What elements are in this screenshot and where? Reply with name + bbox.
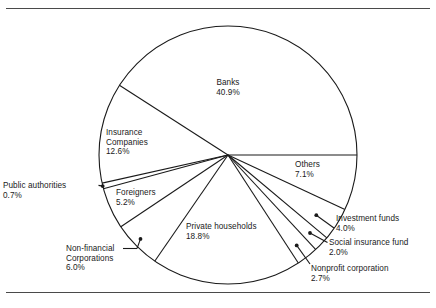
slice-label-nonprofit-name: Nonprofit corporation bbox=[311, 264, 389, 274]
slice-boundary-public-foreigners bbox=[103, 155, 228, 189]
slice-label-investment-value: 4.0% bbox=[336, 224, 399, 234]
slice-label-banks: Banks 40.9% bbox=[188, 78, 268, 97]
slice-label-others-value: 7.1% bbox=[295, 170, 320, 180]
leader-social-insurance-fund bbox=[308, 231, 327, 242]
slice-label-insurance-name-line2: Companies bbox=[106, 138, 148, 148]
slice-boundary-insurance-public bbox=[102, 155, 228, 183]
slice-label-banks-value: 40.9% bbox=[188, 88, 268, 98]
slice-label-social-name: Social insurance fund bbox=[329, 238, 408, 248]
slice-label-households-value: 18.8% bbox=[186, 232, 257, 242]
slice-label-insurance-companies: Insurance Companies 12.6% bbox=[106, 128, 148, 157]
slice-label-insurance-value: 12.6% bbox=[106, 147, 148, 157]
slice-label-nonfinancial-corporations: Non-financial Corporations 6.0% bbox=[66, 244, 114, 273]
pie-chart-figure: Banks 40.9% Insurance Companies 12.6% Pu… bbox=[0, 0, 436, 308]
slice-label-foreigners-name: Foreigners bbox=[116, 188, 156, 198]
slice-label-public-name: Public authorities bbox=[3, 181, 66, 191]
slice-label-private-households: Private households 18.8% bbox=[186, 222, 257, 241]
slice-label-investment-funds: Investment funds 4.0% bbox=[336, 214, 399, 233]
slice-label-nonprofit-value: 2.7% bbox=[311, 274, 389, 284]
slice-label-nonfinancial-value: 6.0% bbox=[66, 263, 114, 273]
slice-label-public-authorities: Public authorities 0.7% bbox=[3, 181, 66, 200]
slice-label-foreigners-value: 5.2% bbox=[116, 198, 156, 208]
slice-label-nonfinancial-name-line2: Corporations bbox=[66, 254, 114, 264]
slice-label-investment-name: Investment funds bbox=[336, 214, 399, 224]
leader-investment-funds bbox=[314, 213, 334, 228]
slice-label-public-value: 0.7% bbox=[3, 191, 66, 201]
slice-label-banks-name: Banks bbox=[188, 78, 268, 88]
slice-label-nonprofit-corporation: Nonprofit corporation 2.7% bbox=[311, 264, 389, 283]
leader-public-authorities bbox=[99, 184, 105, 188]
slice-label-others: Others 7.1% bbox=[295, 160, 320, 179]
slice-label-insurance-name-line1: Insurance bbox=[106, 128, 148, 138]
slice-label-social-value: 2.0% bbox=[329, 248, 408, 258]
slice-boundary-nonfinancial-households bbox=[155, 155, 228, 261]
slice-label-households-name: Private households bbox=[186, 222, 257, 232]
slice-label-others-name: Others bbox=[295, 160, 320, 170]
slice-label-social-insurance-fund: Social insurance fund 2.0% bbox=[329, 238, 408, 257]
slice-label-foreigners: Foreigners 5.2% bbox=[116, 188, 156, 207]
slice-label-nonfinancial-name-line1: Non-financial bbox=[66, 244, 114, 254]
